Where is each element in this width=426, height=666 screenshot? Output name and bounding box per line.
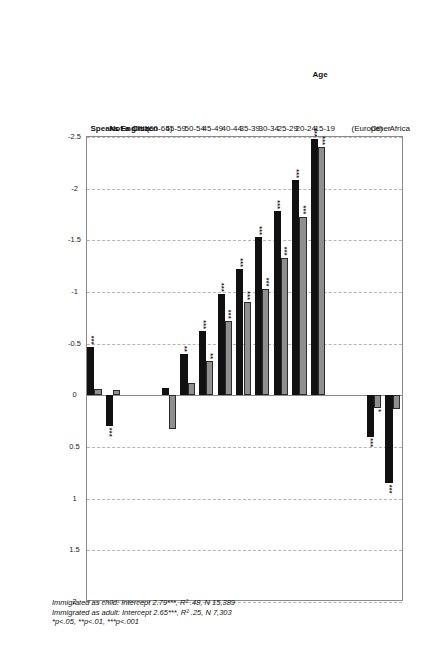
footnote-significance-key: *p<.05, **p<.01, ***p<.001: [52, 617, 235, 627]
significance-stars: *: [375, 409, 382, 412]
bar-child: [225, 321, 232, 395]
significance-stars: ***: [281, 247, 288, 256]
bar-adult: [292, 180, 299, 395]
bar-child: [374, 395, 381, 407]
category-label-30-34: 30-34: [259, 124, 279, 133]
bar-adult: [311, 139, 318, 395]
bar-adult: [162, 388, 169, 395]
bar-adult: [87, 347, 94, 396]
significance-stars: ***: [263, 278, 270, 287]
category-label-50-54: 50-54: [184, 124, 204, 133]
group-heading-age: Age: [313, 70, 328, 79]
bar-child: [244, 302, 251, 395]
gridline: [87, 499, 402, 500]
x-tick-label: 1: [63, 493, 87, 502]
gridline: [87, 189, 402, 190]
bar-adult: [199, 331, 206, 395]
bar-child: [113, 390, 120, 395]
significance-stars: ***: [293, 169, 300, 178]
significance-stars: ***: [319, 136, 326, 145]
bar-child: [281, 258, 288, 395]
category-label-20-24: 20-24: [296, 124, 316, 133]
category-label-35-39: 35-39: [240, 124, 260, 133]
chart-stage: ****************************************…: [0, 0, 426, 666]
significance-stars: ***: [237, 258, 244, 267]
significance-stars: ***: [226, 310, 233, 319]
significance-stars: ***: [200, 320, 207, 329]
category-label-15-19: 15-19: [315, 124, 335, 133]
bar-adult: [255, 237, 262, 395]
zero-line: [87, 395, 402, 396]
bar-adult: [106, 395, 113, 426]
bar-child: [299, 217, 306, 396]
category-label-speaks-english: Speaks English: [91, 124, 150, 133]
significance-stars: ***: [244, 291, 251, 300]
x-tick-label: -1: [63, 287, 87, 296]
bar-child: [393, 395, 400, 408]
significance-stars: ***: [386, 485, 393, 494]
category-label-45-49: 45-49: [203, 124, 223, 133]
chart-footnote: Immigrated as child: Intercept 2.79***, …: [52, 598, 235, 627]
category-label-europe: (Europe): [352, 124, 383, 133]
x-tick-label: -0.5: [63, 338, 87, 347]
significance-stars: ***: [274, 200, 281, 209]
bar-adult: [180, 354, 187, 395]
x-tick-label: 0.5: [63, 442, 87, 451]
significance-stars: ***: [300, 205, 307, 214]
footnote-adult-stats: Intercept 2.65***, R² .25, N 7,303: [120, 608, 232, 617]
significance-stars: ***: [218, 283, 225, 292]
bar-adult: [218, 294, 225, 395]
category-label-africa: Africa: [389, 124, 409, 133]
footnote-adult-label: Immigrated as adult:: [52, 608, 120, 617]
bar-child: [188, 383, 195, 395]
significance-stars: ***: [106, 428, 113, 437]
x-tick-label: 0: [63, 390, 87, 399]
bar-child: [206, 361, 213, 395]
footnote-line-2: Immigrated as adult: Intercept 2.65***, …: [52, 608, 235, 618]
x-tick-label: -2: [63, 183, 87, 192]
bar-adult: [367, 395, 374, 436]
bar-child: [94, 389, 101, 395]
bar-adult: [236, 269, 243, 395]
x-tick-label: 1.5: [63, 545, 87, 554]
bar-child: [262, 289, 269, 395]
gridline: [87, 550, 402, 551]
significance-stars: ***: [88, 336, 95, 345]
x-tick-label: -1.5: [63, 235, 87, 244]
x-tick-label: -2.5: [63, 132, 87, 141]
significance-stars: **: [207, 353, 214, 359]
footnote-line-1: Immigrated as child: Intercept 2.79***, …: [52, 598, 235, 608]
bar-adult: [385, 395, 392, 483]
category-label-40-44: 40-44: [221, 124, 241, 133]
plot-area: ****************************************…: [86, 136, 403, 601]
gridline: [87, 447, 402, 448]
category-label-25-29: 25-29: [277, 124, 297, 133]
gridline: [87, 137, 402, 138]
significance-stars: ***: [256, 226, 263, 235]
significance-stars: **: [181, 346, 188, 352]
significance-stars: ***: [367, 438, 374, 447]
gridline: [87, 240, 402, 241]
bar-adult: [274, 211, 281, 395]
bar-child: [318, 147, 325, 395]
bar-child: [169, 395, 176, 429]
footnote-child-label: Immigrated as child:: [52, 598, 119, 607]
footnote-child-stats: Intercept 2.79***, R² .48, N 15,389: [119, 598, 235, 607]
